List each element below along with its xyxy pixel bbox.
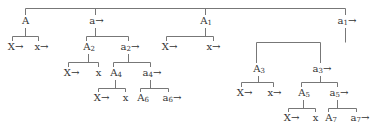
tree-node-a6: a6→	[162, 93, 181, 105]
tree-node-a3: A3	[253, 64, 265, 76]
tree-node-a4: a4→	[142, 68, 161, 80]
tree-node-a3-x: x→	[267, 88, 281, 98]
tree-node-a3: a3→	[312, 64, 331, 76]
tree-node-a4-x: x	[123, 93, 129, 103]
tree-diagram: Aa→A1a1→X→x→A2a2→X→x→A3a3→X→xA4a4→X→x→A5…	[0, 0, 375, 138]
tree-node-a-x: x→	[34, 42, 48, 52]
tree-node-a4-x: X→	[94, 93, 110, 103]
tree-node-a5-x: x	[313, 113, 319, 123]
tree-node-a3-x: X→	[237, 88, 253, 98]
tree-node-a1-x: x→	[206, 42, 220, 52]
tree-node-a2: a2→	[120, 42, 139, 54]
tree-node-a5: a5→	[329, 88, 348, 100]
tree-node-a-x: X→	[8, 42, 24, 52]
tree-node-a1: A1	[200, 16, 212, 28]
tree-node-a1: a1→	[337, 16, 356, 28]
tree-node-a7: A7	[325, 113, 337, 125]
tree-node-a5: A5	[298, 88, 310, 100]
tree-node-a: A	[22, 16, 29, 26]
tree-node-a1-x: X→	[162, 42, 178, 52]
tree-node-a7: a7→	[350, 113, 369, 125]
tree-node-a5-x: X→	[284, 113, 300, 123]
tree-node-a2: A2	[83, 42, 95, 54]
tree-node-a4: A4	[110, 68, 122, 80]
tree-node-a6: A6	[137, 93, 149, 105]
tree-node-a2-x: X→	[64, 68, 80, 78]
tree-node-a: a→	[89, 16, 103, 26]
tree-node-a2-x: x	[96, 68, 102, 78]
